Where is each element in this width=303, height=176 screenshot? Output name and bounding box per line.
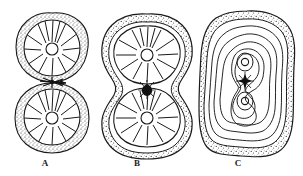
pyrenoid-hub-b-top xyxy=(141,49,153,61)
panel-label-c: C xyxy=(231,158,245,168)
cell-division-diagram xyxy=(0,0,303,176)
panel-a-drawing xyxy=(10,8,96,160)
panel-label-b: B xyxy=(130,158,144,168)
figure-root: A B C xyxy=(0,0,303,176)
panel-c-drawing xyxy=(195,6,299,162)
panel-b-drawing xyxy=(98,10,196,162)
pyrenoid-hub-a-top xyxy=(46,43,58,55)
panel-label-a: A xyxy=(38,158,52,168)
pyrenoid-hub-b-bottom xyxy=(141,112,153,124)
pyrenoid-hub-a-bottom xyxy=(46,112,58,124)
